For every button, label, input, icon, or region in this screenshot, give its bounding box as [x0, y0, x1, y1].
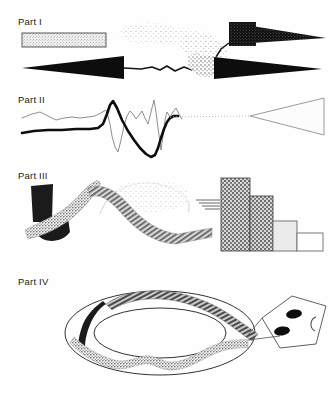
- hatched-band-upper: [106, 291, 258, 341]
- band-tail-left: [78, 301, 106, 347]
- part-1-label: Part I: [18, 16, 42, 27]
- part-2-group: [22, 98, 324, 157]
- part-1-group: [22, 20, 326, 82]
- part-2-label: Part II: [18, 94, 45, 105]
- light-gray-bar: [22, 33, 106, 47]
- bar-4: [297, 233, 323, 251]
- outlined-wedge: [250, 98, 324, 135]
- part-3-group: [25, 178, 323, 251]
- bar-2: [250, 196, 273, 251]
- right-pointing-black-arrow: [214, 57, 322, 79]
- hatch-tail-to-bars: [196, 200, 220, 209]
- part-3-label: Part III: [18, 170, 48, 181]
- kite-polygon: [262, 296, 326, 348]
- figure-vector-layer: [0, 0, 331, 396]
- dark-block-with-spike: [229, 22, 326, 46]
- bar-1: [221, 178, 250, 251]
- part-4-group: [65, 291, 326, 375]
- bar-chart: [221, 178, 323, 251]
- thick-black-trace: [22, 101, 178, 157]
- figure-canvas: Part I Part II Part III Part IV: [0, 0, 331, 396]
- part-4-label: Part IV: [18, 276, 48, 287]
- bar-3: [273, 221, 297, 251]
- left-pointing-black-arrow: [22, 56, 124, 79]
- dotted-connector: [170, 116, 250, 117]
